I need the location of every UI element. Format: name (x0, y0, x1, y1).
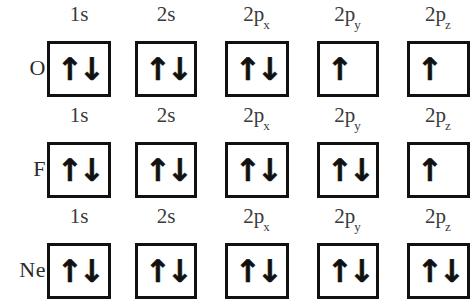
orbital-box-f-2pz[interactable]: ↑ (407, 142, 470, 198)
orbital-label-ne-2pz: 2pz (407, 204, 470, 236)
orbital-label-subscript: y (354, 118, 361, 133)
orbital-label-base: 1s (70, 204, 89, 228)
orbital-label-subscript: z (445, 118, 451, 133)
orbital-label-base: 2p (243, 103, 264, 127)
spin-down-arrow-icon: ↓ (349, 155, 370, 186)
spin-down-arrow-icon: ↓ (167, 155, 188, 186)
orbital-label-base: 2p (425, 103, 446, 127)
spin-down-arrow-icon: ↓ (257, 155, 278, 186)
spin-down-arrow-icon: ↓ (167, 54, 188, 85)
orbital-label-base: 2p (425, 2, 446, 26)
orbital-label-base: 2p (334, 204, 355, 228)
spin-down-arrow-icon: ↓ (79, 256, 100, 287)
orbital-label-base: 1s (70, 103, 89, 127)
orbital-label-subscript: x (263, 118, 270, 133)
orbital-label-base: 2p (334, 103, 355, 127)
orbital-box-o-2pz[interactable]: ↑ (407, 41, 470, 97)
spin-up-arrow-icon: ↑ (417, 54, 438, 85)
orbital-label-f-2px: 2px (225, 103, 289, 135)
orbital-label-ne-2px: 2px (225, 204, 289, 236)
orbital-label-subscript: x (263, 219, 270, 234)
orbital-label-subscript: z (445, 17, 451, 32)
orbital-box-o-1s[interactable]: ↑ ↓ (47, 41, 111, 97)
atom-row-o: O 1s ↑ ↓ 2s ↑ ↓ 2px ↑ ↓ 2py ↑ (0, 0, 476, 100)
orbital-box-ne-2py[interactable]: ↑ ↓ (317, 243, 379, 299)
spin-up-arrow-icon: ↑ (327, 155, 348, 186)
spin-down-arrow-icon: ↓ (257, 54, 278, 85)
orbital-label-base: 1s (70, 2, 89, 26)
orbital-label-o-2s: 2s (135, 2, 197, 34)
orbital-box-o-2py[interactable]: ↑ (317, 41, 379, 97)
orbital-label-f-2py: 2py (317, 103, 379, 135)
spin-up-arrow-icon: ↑ (235, 54, 256, 85)
orbital-box-o-2px[interactable]: ↑ ↓ (225, 41, 289, 97)
orbital-box-o-2s[interactable]: ↑ ↓ (135, 41, 197, 97)
orbital-label-base: 2s (157, 2, 176, 26)
orbital-label-o-2pz: 2pz (407, 2, 470, 34)
orbital-box-ne-2s[interactable]: ↑ ↓ (135, 243, 197, 299)
spin-up-arrow-icon: ↑ (417, 256, 438, 287)
orbital-box-f-2py[interactable]: ↑ ↓ (317, 142, 379, 198)
spin-up-arrow-icon: ↑ (145, 155, 166, 186)
orbital-label-subscript: y (354, 17, 361, 32)
orbital-label-base: 2p (243, 204, 264, 228)
element-symbol-f: F (2, 158, 46, 180)
spin-up-arrow-icon: ↑ (327, 54, 348, 85)
atom-row-f: F 1s ↑ ↓ 2s ↑ ↓ 2px ↑ ↓ 2py ↑ (0, 101, 476, 201)
spin-down-arrow-icon: ↓ (257, 256, 278, 287)
spin-down-arrow-icon: ↓ (79, 155, 100, 186)
orbital-label-base: 2p (425, 204, 446, 228)
spin-up-arrow-icon: ↑ (327, 256, 348, 287)
spin-down-arrow-icon: ↓ (439, 256, 460, 287)
orbital-label-o-2py: 2py (317, 2, 379, 34)
spin-up-arrow-icon: ↑ (57, 256, 78, 287)
spin-down-arrow-icon: ↓ (79, 54, 100, 85)
orbital-label-subscript: z (445, 219, 451, 234)
orbital-diagram: O 1s ↑ ↓ 2s ↑ ↓ 2px ↑ ↓ 2py ↑ (0, 0, 476, 301)
spin-up-arrow-icon: ↑ (145, 256, 166, 287)
element-symbol-ne: Ne (2, 259, 46, 281)
orbital-label-base: 2s (157, 204, 176, 228)
orbital-label-subscript: x (263, 17, 270, 32)
orbital-box-ne-2pz[interactable]: ↑ ↓ (407, 243, 470, 299)
orbital-box-f-2px[interactable]: ↑ ↓ (225, 142, 289, 198)
spin-up-arrow-icon: ↑ (57, 54, 78, 85)
spin-up-arrow-icon: ↑ (235, 256, 256, 287)
spin-up-arrow-icon: ↑ (235, 155, 256, 186)
orbital-box-ne-2px[interactable]: ↑ ↓ (225, 243, 289, 299)
spin-up-arrow-icon: ↑ (57, 155, 78, 186)
orbital-label-o-2px: 2px (225, 2, 289, 34)
orbital-label-base: 2p (334, 2, 355, 26)
orbital-label-f-2s: 2s (135, 103, 197, 135)
orbital-box-ne-1s[interactable]: ↑ ↓ (47, 243, 111, 299)
orbital-label-ne-2py: 2py (317, 204, 379, 236)
spin-down-arrow-icon: ↓ (349, 256, 370, 287)
orbital-label-f-2pz: 2pz (407, 103, 470, 135)
orbital-label-base: 2p (243, 2, 264, 26)
orbital-label-f-1s: 1s (47, 103, 111, 135)
spin-down-arrow-icon: ↓ (167, 256, 188, 287)
element-symbol-o: O (2, 57, 46, 79)
orbital-label-ne-2s: 2s (135, 204, 197, 236)
orbital-label-ne-1s: 1s (47, 204, 111, 236)
orbital-label-o-1s: 1s (47, 2, 111, 34)
spin-up-arrow-icon: ↑ (145, 54, 166, 85)
orbital-label-subscript: y (354, 219, 361, 234)
spin-up-arrow-icon: ↑ (417, 155, 438, 186)
atom-row-ne: Ne 1s ↑ ↓ 2s ↑ ↓ 2px ↑ ↓ 2py ↑ (0, 202, 476, 301)
orbital-box-f-1s[interactable]: ↑ ↓ (47, 142, 111, 198)
orbital-box-f-2s[interactable]: ↑ ↓ (135, 142, 197, 198)
orbital-label-base: 2s (157, 103, 176, 127)
